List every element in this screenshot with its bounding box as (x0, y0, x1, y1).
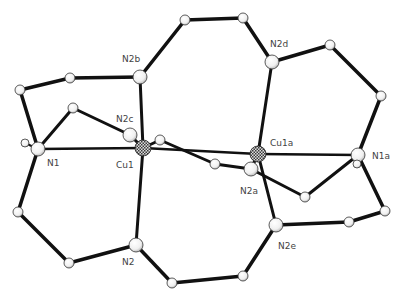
atom-cu1 (135, 140, 151, 156)
molecule-canvas: Cu1Cu1aN1N1aN2N2aN2bN2cN2dN2e (0, 0, 404, 303)
atom-n2a (244, 162, 258, 176)
atom-c16 (64, 258, 74, 268)
atom-c1 (180, 15, 190, 25)
atom-label-n2c: N2c (116, 114, 133, 124)
bond-c1-c2 (185, 18, 243, 20)
atom-cu1a (250, 146, 266, 162)
molecular-structure-diagram: Cu1Cu1aN1N1aN2N2aN2bN2cN2dN2e (0, 0, 404, 303)
atom-c13 (380, 206, 390, 216)
atom-c14 (344, 217, 354, 227)
atom-c15 (13, 207, 23, 217)
bond-c15-c16 (18, 212, 69, 263)
bond-cu1-n2 (136, 148, 143, 245)
atom-c2 (238, 13, 248, 23)
atom-label-cu1a: Cu1a (270, 138, 293, 148)
atom-c11 (353, 160, 361, 168)
bond-n2-c17 (136, 245, 172, 283)
bond-cu1-n2b (140, 77, 143, 148)
atom-n2e (269, 218, 283, 232)
bond-cu1a-n1a (258, 154, 358, 155)
bond-n2b-c1 (140, 20, 185, 77)
atom-n1 (31, 142, 45, 156)
atom-label-n2b: N2b (122, 54, 140, 64)
bond-n2e-c14 (276, 222, 349, 225)
atom-n2b (133, 70, 147, 84)
bond-n1-c7 (38, 108, 73, 149)
atom-label-n2a: N2a (240, 186, 258, 196)
atom-c10 (210, 159, 220, 169)
atom-c12 (300, 192, 310, 202)
bond-c5-c6 (20, 78, 70, 90)
atom-label-n2: N2 (122, 257, 134, 267)
atom-n2d (265, 55, 279, 69)
bond-c14-c13 (349, 211, 385, 222)
atom-label-cu1: Cu1 (116, 160, 134, 170)
atom-c9 (155, 135, 165, 145)
atom-n2 (129, 238, 143, 252)
atom-c4 (376, 91, 386, 101)
bond-c17-c18 (172, 276, 243, 283)
atom-c6 (15, 85, 25, 95)
atom-c5 (65, 73, 75, 83)
bond-n1-c15 (18, 149, 38, 212)
bond-n2b-c5 (70, 77, 140, 78)
atom-label-n2e: N2e (278, 241, 296, 251)
bond-c18-n2e (243, 225, 276, 276)
atom-c17 (167, 278, 177, 288)
bond-c12-n2a (251, 169, 305, 197)
bond-c13-n1a (358, 155, 385, 211)
bond-n1-cu1 (38, 148, 143, 149)
atom-label-n2d: N2d (270, 39, 288, 49)
bond-cu1a-n2e (258, 154, 276, 225)
atom-label-n1a: N1a (372, 151, 390, 161)
atom-label-n1: N1 (47, 158, 59, 168)
bond-cu1-cu1a (143, 148, 258, 154)
bond-c2-n2d (243, 18, 272, 62)
bond-n1a-c12 (305, 155, 358, 197)
atom-c3 (325, 40, 335, 50)
bond-c4-n1a (358, 96, 381, 155)
atom-n2c (123, 128, 137, 142)
atom-c8 (21, 139, 29, 147)
atom-c7 (68, 103, 78, 113)
bond-c3-c4 (330, 45, 381, 96)
bonds-layer (18, 18, 385, 283)
atom-c18 (238, 271, 248, 281)
